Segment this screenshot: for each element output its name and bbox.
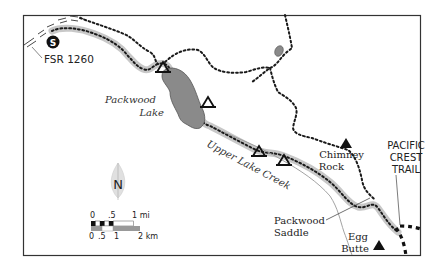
lake-label-line2: Lake bbox=[138, 107, 164, 118]
lake-label-line1: Packwood bbox=[104, 94, 156, 105]
scale-km-0: 0 bbox=[89, 232, 94, 241]
chimney-rock-label-line2: Rock bbox=[319, 161, 345, 172]
compass-letter: N bbox=[113, 177, 123, 192]
pct-label-line1: PACIFIC bbox=[387, 140, 425, 151]
scale-mi-0: 0 bbox=[90, 211, 95, 220]
start-marker-letter: S bbox=[50, 38, 56, 48]
scale-km-half: .5 bbox=[98, 232, 106, 241]
trail-map: S FSR 1260 Packwood Lake Upper Lake Cree… bbox=[0, 0, 447, 273]
scale-mi-1: 1 mi bbox=[132, 211, 150, 220]
road-label: FSR 1260 bbox=[44, 53, 94, 65]
egg-butte-label-line1: Egg bbox=[348, 231, 369, 242]
scale-km-2: 2 km bbox=[138, 232, 158, 241]
pct-label-line3: TRAIL bbox=[391, 164, 420, 175]
saddle-label-line1: Packwood bbox=[274, 215, 326, 226]
scale-km-1: 1 bbox=[114, 232, 119, 241]
chimney-rock-label-line1: Chimney bbox=[319, 149, 364, 160]
pct-label-line2: CREST bbox=[390, 152, 424, 163]
egg-butte-label-line2: Butte bbox=[341, 243, 369, 254]
scale-mi-half: .5 bbox=[108, 211, 116, 220]
saddle-label-line2: Saddle bbox=[274, 227, 309, 238]
